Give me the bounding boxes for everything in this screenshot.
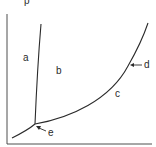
region-label-c: c bbox=[115, 88, 120, 99]
y-axis-label: p bbox=[24, 0, 30, 6]
fusion-curve bbox=[35, 24, 41, 124]
phase-diagram: p a b c d e bbox=[0, 0, 156, 147]
point-label-e: e bbox=[48, 127, 54, 138]
arrow-e-shaft bbox=[39, 128, 46, 131]
arrow-e-head-icon bbox=[36, 126, 41, 130]
arrow-d-head-icon bbox=[130, 63, 134, 67]
sublimation-curve bbox=[12, 124, 35, 138]
region-label-b: b bbox=[56, 65, 62, 76]
point-label-d: d bbox=[144, 59, 150, 70]
vaporization-curve bbox=[35, 23, 148, 124]
region-label-a: a bbox=[23, 52, 29, 63]
